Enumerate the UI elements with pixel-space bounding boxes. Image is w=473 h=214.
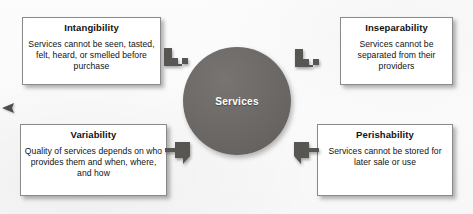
concept-box-body: Quality of services depends on who provi… [24, 146, 163, 178]
concept-box-inseparability[interactable]: Inseparability Services cannot be separa… [340, 17, 453, 85]
concept-box-body: Services cannot be separated from their … [344, 39, 449, 71]
concept-box-variability[interactable]: Variability Quality of services depends … [20, 124, 167, 196]
arrow-up-right-icon [163, 138, 193, 168]
concept-box-intangibility[interactable]: Intangibility Services cannot be seen, t… [22, 17, 161, 85]
services-circle-label: Services [215, 96, 259, 107]
concept-box-title: Perishability [321, 129, 449, 141]
concept-box-title: Intangibility [26, 22, 157, 34]
edge-pointer-icon [0, 102, 14, 114]
concept-box-body: Services cannot be seen, tasted, felt, h… [26, 39, 157, 71]
arrow-down-right-icon [162, 44, 192, 74]
concept-box-body: Services cannot be stored for later sale… [321, 146, 449, 168]
arrow-up-left-icon [291, 138, 321, 168]
concept-box-title: Variability [24, 129, 163, 141]
arrow-down-left-icon [291, 45, 321, 75]
concept-box-perishability[interactable]: Perishability Services cannot be stored … [317, 124, 453, 196]
services-circle[interactable]: Services [183, 47, 291, 155]
services-characteristics-diagram: Intangibility Services cannot be seen, t… [0, 0, 473, 214]
concept-box-title: Inseparability [344, 22, 449, 34]
